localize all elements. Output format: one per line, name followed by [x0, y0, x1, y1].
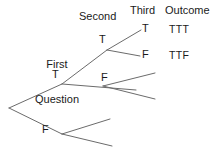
stage-label-third: Third — [130, 5, 155, 17]
node-level2-false: F — [101, 72, 108, 84]
branch-tt-to-t — [107, 30, 141, 50]
branch-tf-upper — [103, 73, 155, 86]
node-level3-false: F — [142, 49, 149, 61]
stage-label-first-question: First Question — [29, 36, 85, 128]
node-level2-true: T — [99, 34, 106, 46]
node-level1-true: T — [52, 69, 59, 81]
branch-f-lower — [62, 134, 112, 146]
branch-tf-lower — [103, 86, 155, 99]
outcome-ttf: TTF — [169, 50, 189, 61]
branch-tt-to-f — [107, 50, 140, 56]
node-level3-true: T — [142, 23, 149, 35]
node-level1-false: F — [42, 124, 49, 136]
stage-label-second: Second — [79, 11, 116, 23]
outcome-ttt: TTT — [169, 24, 189, 35]
stage-label-first-line-2: Question — [29, 94, 85, 106]
stage-label-outcome: Outcome — [165, 5, 210, 17]
probability-tree-diagram: First Question Second Third Outcome T F … — [0, 0, 217, 148]
